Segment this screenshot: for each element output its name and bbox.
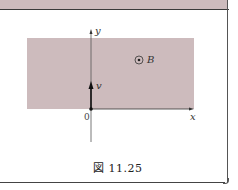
y-axis-arrow-icon — [90, 29, 93, 34]
y-axis-label: y — [95, 25, 101, 36]
x-axis-label: x — [190, 111, 196, 122]
origin-point — [89, 107, 93, 111]
figure-caption: 図 11.25 — [93, 159, 143, 175]
velocity-label: v — [96, 80, 102, 91]
magnetic-field-region — [27, 38, 194, 109]
field-label: B — [147, 54, 154, 65]
origin-label: 0 — [84, 112, 90, 122]
out-of-page-dot — [138, 59, 141, 62]
